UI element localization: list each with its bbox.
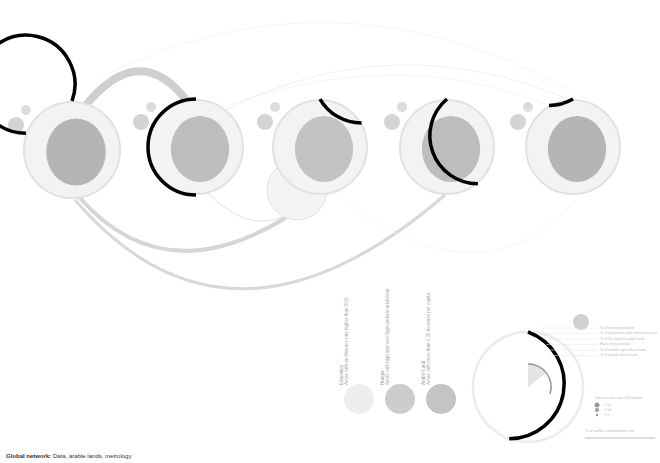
legend-key-text: % of population with internet access [600, 331, 657, 335]
internet-size-dot [595, 408, 599, 412]
legend-key-text: Ratio of population [600, 342, 630, 346]
legend-label-education: EducationAreas with an illiteracy rate h… [339, 297, 349, 385]
legend-extra-text: 5-50 [604, 408, 611, 412]
legend-swatch-arable-land [426, 384, 456, 414]
legend-extra-text: > 50 [604, 403, 611, 407]
legend-label-arable-land: Arable LandAreas with more than 0.30 hec… [421, 293, 431, 385]
footer-title: Global network: [6, 453, 51, 459]
legend-key-text: % of world population [600, 326, 634, 330]
legend-extra-text: < 5 [604, 413, 609, 417]
globe-north-america [0, 35, 120, 198]
legend-extra-text: % of world's export/import ratio [585, 429, 634, 433]
legend-key-text: % of world's agricultural land [600, 348, 646, 352]
connection-arc-na-southamerica [75, 195, 445, 289]
export-ratio-bar [585, 437, 655, 439]
stat-bubble-small [523, 102, 533, 112]
continent-shape [171, 116, 229, 182]
globe-europe [133, 99, 243, 195]
continent-shape [548, 116, 606, 182]
stat-bubble [133, 114, 149, 130]
globe-south-america [384, 99, 494, 194]
globe-africa [510, 99, 620, 194]
global-network-diagram [0, 0, 660, 463]
legend-key-text: % of the world's arable land [600, 337, 644, 341]
legend-label-hunger: HungerAreas with high and very high unde… [380, 288, 390, 385]
connection-arc-asia-africa [330, 190, 575, 253]
legend-bubble-icon [573, 314, 589, 330]
continent-shape [295, 116, 353, 182]
stat-bubble-small [397, 102, 407, 112]
legend-donut-arc [509, 332, 564, 439]
legend-key-text: % of world's forest land [600, 353, 637, 357]
legend-donut-wedge [528, 364, 546, 387]
stat-bubble [384, 114, 400, 130]
stat-bubble-small [146, 102, 156, 112]
footer-subtitle: Data, arable lands, metrology [53, 453, 131, 459]
footer-caption: Global network: Data, arable lands, metr… [6, 453, 131, 459]
continent-shape [46, 118, 106, 185]
internet-size-dot [595, 403, 600, 408]
legend-swatch-hunger [385, 384, 415, 414]
legend-swatch-education [344, 384, 374, 414]
stat-bubble [257, 114, 273, 130]
connection-arc-europe-africa [215, 75, 560, 110]
stat-bubble [510, 114, 526, 130]
stat-bubble-small [270, 102, 280, 112]
internet-size-dot [596, 414, 598, 416]
legend-extra-text: Internet users per 100 people [595, 396, 642, 400]
stat-bubble-small [21, 105, 31, 115]
